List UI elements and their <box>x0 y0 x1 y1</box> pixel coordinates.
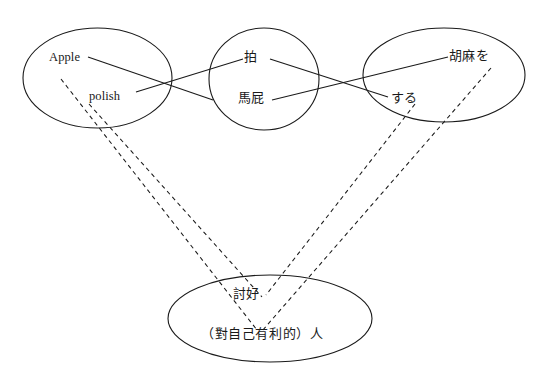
label-pai: 拍 <box>244 50 257 63</box>
ellipse-japanese <box>363 28 525 122</box>
label-gomawo: 胡麻を <box>449 49 489 62</box>
label-polish: polish <box>89 90 120 103</box>
edge-polish-to-pai <box>136 59 243 92</box>
label-beneficiary: （對自己有利的）人 <box>201 327 323 340</box>
ellipse-chinese <box>209 28 319 130</box>
dashed-edge-gomawo-to-meaning <box>262 68 491 331</box>
label-apple: Apple <box>49 51 80 64</box>
ellipse-meaning <box>168 275 372 362</box>
label-suru: する <box>391 91 418 104</box>
label-taohao: 討好 <box>233 287 260 300</box>
edge-mapi-to-gomawo <box>272 57 448 100</box>
diagram-canvas: Apple polish 拍 馬屁 胡麻を する 討好 （對自己有利的）人 <box>0 0 541 385</box>
dashed-edge-suru-to-meaning <box>266 104 415 295</box>
edge-pai-to-suru <box>270 59 388 97</box>
label-mapi: 馬屁 <box>238 91 265 104</box>
dashed-edge-polish-to-meaning <box>89 104 262 297</box>
